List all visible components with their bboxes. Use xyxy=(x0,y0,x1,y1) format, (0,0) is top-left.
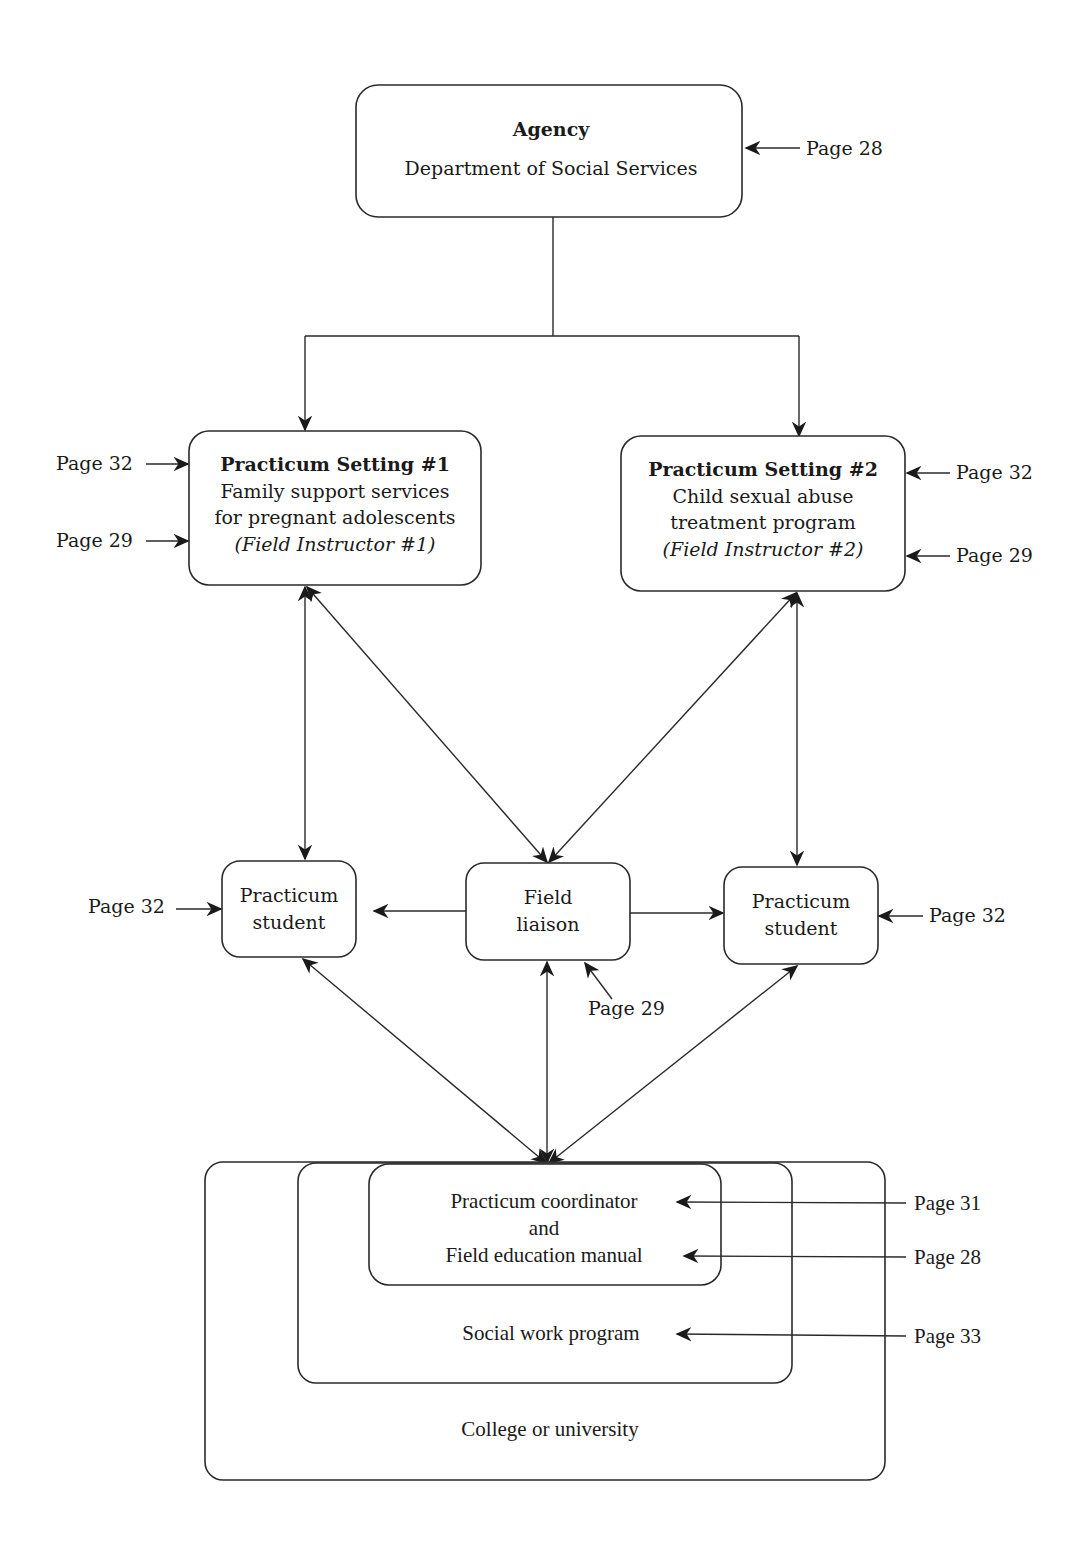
setting2-page-ref-top-label: Page 32 xyxy=(956,461,1033,483)
arrow-icon xyxy=(585,963,612,999)
student1-box xyxy=(222,861,356,957)
liaison-box xyxy=(466,863,630,960)
student1-line1: Practicum xyxy=(240,884,338,906)
student2-page-ref: Page 32 xyxy=(879,904,1006,926)
setting2-page-ref-bottom: Page 29 xyxy=(907,544,1033,566)
practicum-structure-diagram: Agency Department of Social Services Pag… xyxy=(0,0,1084,1559)
liaison-page-ref: Page 29 xyxy=(585,963,665,1019)
program-page-ref-label: Page 33 xyxy=(914,1324,981,1348)
liaison-line1: Field xyxy=(524,886,573,908)
coordinator-line3: Field education manual xyxy=(445,1243,642,1267)
setting2-node: Practicum Setting #2 Child sexual abuse … xyxy=(621,436,905,591)
student2-box xyxy=(724,867,878,964)
agency-subtitle: Department of Social Services xyxy=(405,157,698,179)
coordinator-page-ref-label: Page 31 xyxy=(914,1191,981,1215)
double-arrow-icon xyxy=(549,593,796,862)
liaison-node: Field liaison xyxy=(466,863,630,960)
setting1-page-ref-top-label: Page 32 xyxy=(56,452,133,474)
manual-page-ref-label: Page 28 xyxy=(914,1245,981,1269)
liaison-page-ref-label: Page 29 xyxy=(588,997,665,1019)
setting1-line2: for pregnant adolescents xyxy=(214,506,455,528)
student2-line2: student xyxy=(765,917,838,939)
student1-page-ref: Page 32 xyxy=(88,895,221,917)
double-arrow-icon xyxy=(307,587,547,862)
setting1-node: Practicum Setting #1 Family support serv… xyxy=(189,431,481,585)
liaison-line2: liaison xyxy=(517,913,580,935)
setting2-line2: treatment program xyxy=(670,511,855,533)
agency-page-ref-label: Page 28 xyxy=(806,137,883,159)
university-relationship-arrows xyxy=(303,959,797,1163)
coordinator-node: Practicum coordinator and Field educatio… xyxy=(369,1164,721,1285)
setting1-line1: Family support services xyxy=(220,480,449,502)
agency-title: Agency xyxy=(512,118,590,140)
setting1-page-ref-bottom: Page 29 xyxy=(56,529,188,551)
coordinator-line2: and xyxy=(529,1216,560,1240)
double-arrow-icon xyxy=(303,959,546,1163)
setting2-page-ref-top: Page 32 xyxy=(907,461,1033,483)
student2-line1: Practicum xyxy=(752,890,850,912)
student1-page-ref-label: Page 32 xyxy=(88,895,165,917)
program-label: Social work program xyxy=(462,1321,639,1345)
student1-line2: student xyxy=(253,911,326,933)
college-label: College or university xyxy=(461,1417,639,1441)
agency-box xyxy=(356,85,742,217)
setting1-instructor: (Field Instructor #1) xyxy=(235,533,436,555)
setting1-page-ref-bottom-label: Page 29 xyxy=(56,529,133,551)
setting2-instructor: (Field Instructor #2) xyxy=(663,538,864,560)
agency-node: Agency Department of Social Services xyxy=(356,85,742,217)
setting1-page-ref-top: Page 32 xyxy=(56,452,188,474)
double-arrow-icon xyxy=(549,966,797,1163)
setting-relationship-arrows xyxy=(305,587,797,865)
student1-node: Practicum student xyxy=(222,861,356,957)
setting2-page-ref-bottom-label: Page 29 xyxy=(956,544,1033,566)
coordinator-line1: Practicum coordinator xyxy=(450,1189,637,1213)
setting1-title: Practicum Setting #1 xyxy=(220,453,450,475)
setting2-line1: Child sexual abuse xyxy=(672,485,853,507)
setting2-title: Practicum Setting #2 xyxy=(648,458,878,480)
student2-node: Practicum student xyxy=(724,867,878,964)
student2-page-ref-label: Page 32 xyxy=(929,904,1006,926)
agency-connector xyxy=(305,217,799,436)
agency-page-ref: Page 28 xyxy=(746,137,883,159)
